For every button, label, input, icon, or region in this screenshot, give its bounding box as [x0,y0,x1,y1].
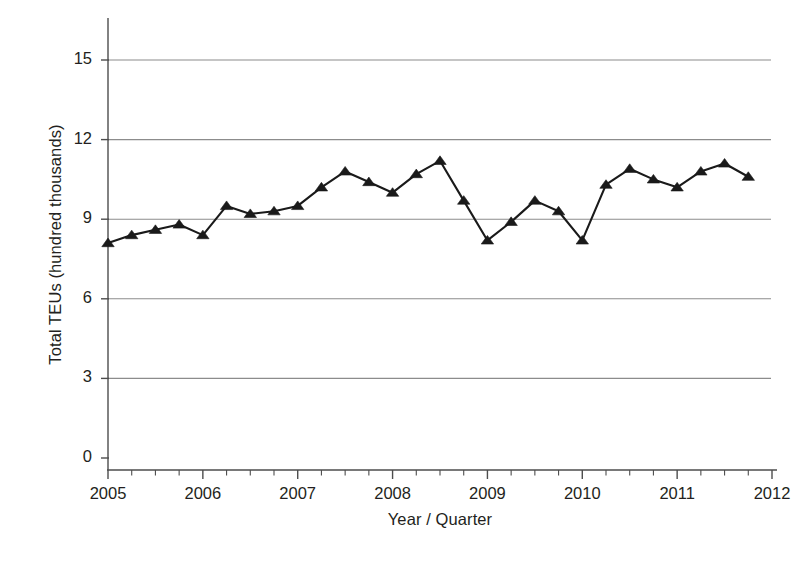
y-tick-label: 9 [46,208,92,227]
data-point-marker: 2008 Q4: 9.7 [458,196,470,205]
x-tick-label: 2008 [353,484,433,503]
y-tick-label: 12 [46,129,92,148]
page-footer-artifact [6,548,46,564]
data-point-marker: 2011 Q4: 10.6 [742,172,754,181]
data-point-marker: 2007 Q3: 10.8 [339,166,351,175]
axis-spines [107,18,777,470]
x-tick-label: 2007 [258,484,338,503]
y-tick-label: 0 [46,447,92,466]
data-point-marker: 2011 Q3: 11.1 [718,158,730,167]
x-tick-label: 2009 [447,484,527,503]
data-point-marker: 2005 Q4: 8.8 [173,220,185,229]
data-point-marker: 2008 Q2: 10.7 [410,169,422,178]
x-ticks [108,470,772,479]
line-chart-figure: Total TEUs (hundred thousands) Year / Qu… [0,0,805,573]
x-tick-label: 2006 [163,484,243,503]
y-tick-label: 15 [46,49,92,68]
y-tick-label: 6 [46,288,92,307]
data-point-marker: 2008 Q3: 11.2 [434,156,446,165]
gridlines [108,60,771,378]
x-tick-label: 2012 [732,484,805,503]
x-tick-label: 2011 [637,484,717,503]
x-tick-label: 2010 [542,484,622,503]
data-point-marker: 2009 Q3: 9.7 [529,196,541,205]
data-point-marker: 2010 Q3: 10.9 [624,164,636,173]
data-point-marker: 2009 Q4: 9.3 [552,206,564,215]
data-point-marker: 2007 Q4: 10.4 [363,177,375,186]
y-tick-label: 3 [46,367,92,386]
data-point-marker: 2010 Q4: 10.5 [647,174,659,183]
data-point-marker: 2006 Q2: 9.5 [220,201,232,210]
data-line-total-teus [108,161,748,243]
x-tick-label: 2005 [68,484,148,503]
